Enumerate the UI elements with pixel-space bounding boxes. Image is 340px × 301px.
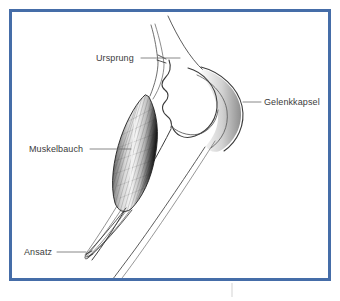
upper-tendon-anterior <box>150 25 158 96</box>
label-gelenkkapsel: Gelenkkapsel <box>264 98 320 107</box>
anatomy-figure: Ursprung Muskelbauch Gelenkkapsel Ansatz <box>0 0 340 301</box>
muscle-belly-fill <box>113 95 158 211</box>
joint-head-articular-surface <box>172 110 218 135</box>
lower-tendon-fibers <box>85 206 131 257</box>
bone-outer-shaft-line <box>168 16 203 70</box>
label-muskelbauch: Muskelbauch <box>29 145 83 154</box>
label-ansatz: Ansatz <box>24 248 52 257</box>
label-ursprung: Ursprung <box>96 54 134 63</box>
